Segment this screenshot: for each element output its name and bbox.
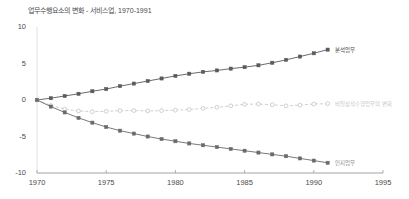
series-marker (160, 137, 163, 140)
data-series (35, 98, 329, 164)
x-axis-tick-label: 1975 (86, 178, 126, 187)
series-marker (118, 109, 122, 113)
series-marker (201, 70, 204, 73)
series-marker (243, 102, 247, 106)
y-axis-tick-label: 10 (4, 22, 26, 31)
series-marker (270, 103, 274, 107)
series-marker (174, 108, 178, 112)
series-marker (77, 116, 80, 119)
series-marker (243, 149, 246, 152)
series-marker (298, 55, 301, 58)
series-marker (132, 132, 135, 135)
series-marker (146, 79, 149, 82)
series-marker (284, 104, 288, 108)
series-marker (215, 105, 219, 109)
line-chart: 업무수행요소의 변화 - 서비스업, 1970-1991 1050-5-1019… (0, 0, 409, 199)
series-marker (215, 69, 218, 72)
series-marker (312, 102, 316, 106)
series-marker (105, 87, 108, 90)
series-marker (312, 52, 315, 55)
series-marker (77, 109, 81, 113)
series-marker (243, 66, 246, 69)
x-axis-tick-label: 1990 (294, 178, 334, 187)
series-marker (91, 90, 94, 93)
series-marker (160, 109, 164, 113)
series-marker (326, 102, 330, 106)
series-marker (285, 155, 288, 158)
series-marker (104, 109, 108, 113)
series-marker (187, 108, 191, 112)
series-marker (63, 94, 66, 97)
data-series (35, 98, 329, 113)
series-marker (132, 109, 136, 113)
series-marker (105, 125, 108, 128)
series-marker (229, 147, 232, 150)
y-axis-tick-label: 5 (4, 59, 26, 68)
series-marker (201, 106, 205, 110)
series-end-label: 비일상적수행업무의 변화 (335, 100, 392, 108)
series-marker (312, 159, 315, 162)
series-marker (35, 98, 38, 101)
series-marker (160, 77, 163, 80)
series-marker (215, 145, 218, 148)
y-axis-tick-label: -5 (4, 132, 26, 141)
series-marker (91, 121, 94, 124)
series-marker (49, 97, 52, 100)
series-marker (285, 58, 288, 61)
series-marker (298, 157, 301, 160)
series-marker (271, 153, 274, 156)
series-marker (229, 67, 232, 70)
series-marker (326, 48, 329, 51)
series-marker (201, 144, 204, 147)
series-end-label: 분석업무 (335, 46, 355, 54)
series-marker (63, 111, 66, 114)
series-marker (257, 64, 260, 67)
x-axis-tick-label: 1980 (155, 178, 195, 187)
series-marker (118, 129, 121, 132)
series-marker (146, 109, 150, 113)
series-marker (229, 104, 233, 108)
series-line (37, 50, 328, 100)
x-axis-tick-label: 1985 (225, 178, 265, 187)
series-marker (132, 82, 135, 85)
series-marker (77, 92, 80, 95)
series-marker (49, 105, 52, 108)
series-marker (146, 135, 149, 138)
data-series (35, 48, 329, 102)
x-axis-tick-label: 1970 (17, 178, 57, 187)
series-marker (63, 107, 67, 111)
series-end-label: 인지업무 (335, 159, 355, 167)
series-marker (326, 161, 329, 164)
x-axis-tick-label: 1995 (363, 178, 403, 187)
series-marker (257, 151, 260, 154)
series-marker (174, 140, 177, 143)
series-marker (118, 85, 121, 88)
series-marker (90, 110, 94, 114)
series-marker (271, 61, 274, 64)
series-line (37, 100, 328, 163)
series-marker (257, 102, 261, 106)
series-marker (188, 72, 191, 75)
y-axis-tick-label: 0 (4, 95, 26, 104)
y-axis-tick-label: -10 (4, 168, 26, 177)
series-marker (188, 142, 191, 145)
series-marker (298, 103, 302, 107)
series-marker (174, 74, 177, 77)
